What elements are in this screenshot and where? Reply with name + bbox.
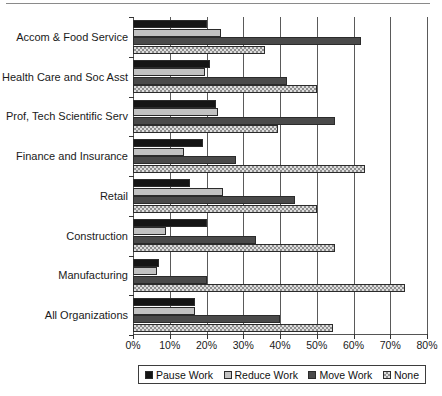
y-axis-category-label: All Organizations [0, 309, 128, 321]
bar [133, 196, 295, 204]
plot-area [133, 17, 427, 335]
y-axis-category-label: Finance and Insurance [0, 150, 128, 162]
legend-label-0: Pause Work [156, 369, 213, 381]
bar [133, 284, 405, 292]
x-tick-label-20%: 20% [187, 339, 227, 351]
bar [133, 227, 166, 235]
legend-label-3: None [394, 369, 419, 381]
bar [133, 20, 207, 28]
bar-group [133, 219, 427, 253]
bar [133, 267, 157, 275]
gridline-80% [427, 17, 428, 335]
bar [133, 85, 317, 93]
x-tick-label-40%: 40% [260, 339, 300, 351]
y-axis-category-label: Construction [0, 230, 128, 242]
legend-swatch-reduce-work-icon [224, 371, 232, 379]
legend-item-0[interactable]: Pause Work [145, 369, 213, 381]
bar [133, 37, 361, 45]
bar [133, 77, 287, 85]
bar [133, 108, 218, 116]
y-tick [129, 17, 134, 18]
y-tick [129, 335, 134, 336]
x-tick-label-10%: 10% [150, 339, 190, 351]
chart-legend: Pause Work Reduce Work Move Work None [138, 365, 426, 384]
legend-swatch-move-work-icon [308, 371, 316, 379]
bar-group [133, 139, 427, 173]
y-axis-category-label: Manufacturing [0, 269, 128, 281]
legend-item-2[interactable]: Move Work [308, 369, 372, 381]
bar [133, 315, 280, 323]
legend-item-1[interactable]: Reduce Work [224, 369, 298, 381]
bar-group [133, 20, 427, 54]
bar [133, 324, 333, 332]
legend-label-1: Reduce Work [235, 369, 298, 381]
bar [133, 179, 190, 187]
x-tick-label-80%: 80% [407, 339, 442, 351]
y-tick [129, 256, 134, 257]
y-axis-category-label: Prof, Tech Scientific Serv [0, 110, 128, 122]
bar [133, 139, 203, 147]
bar [133, 29, 221, 37]
bar [133, 205, 317, 213]
bar [133, 298, 195, 306]
bar-group [133, 298, 427, 332]
bar [133, 60, 210, 68]
bar [133, 148, 184, 156]
bar [133, 236, 256, 244]
bar [133, 100, 216, 108]
legend-item-3[interactable]: None [383, 369, 419, 381]
y-tick [129, 136, 134, 137]
bar [133, 117, 335, 125]
bar [133, 46, 265, 54]
bar [133, 259, 159, 267]
bar-group [133, 179, 427, 213]
bar-group [133, 259, 427, 293]
x-tick-label-30%: 30% [223, 339, 263, 351]
bar [133, 188, 223, 196]
bar [133, 276, 207, 284]
x-tick-label-70%: 70% [370, 339, 410, 351]
bar [133, 68, 205, 76]
bar [133, 125, 278, 133]
bar [133, 165, 365, 173]
legend-swatch-none-icon [383, 371, 391, 379]
header-divider [6, 3, 430, 4]
y-tick [129, 176, 134, 177]
y-axis-category-label: Retail [0, 190, 128, 202]
y-tick [129, 57, 134, 58]
y-tick [129, 295, 134, 296]
legend-swatch-pause-work-icon [145, 371, 153, 379]
bar [133, 156, 236, 164]
y-tick [129, 216, 134, 217]
bar-group [133, 100, 427, 134]
y-axis-category-label: Accom & Food Service [0, 31, 128, 43]
bar [133, 244, 335, 252]
x-tick-label-50%: 50% [297, 339, 337, 351]
y-tick [129, 97, 134, 98]
x-tick-label-60%: 60% [334, 339, 374, 351]
x-tick-label-0%: 0% [113, 339, 153, 351]
bar-group [133, 60, 427, 94]
legend-label-2: Move Work [319, 369, 372, 381]
bar [133, 307, 195, 315]
bar [133, 219, 207, 227]
y-axis-category-label: Health Care and Soc Asst [0, 71, 128, 83]
